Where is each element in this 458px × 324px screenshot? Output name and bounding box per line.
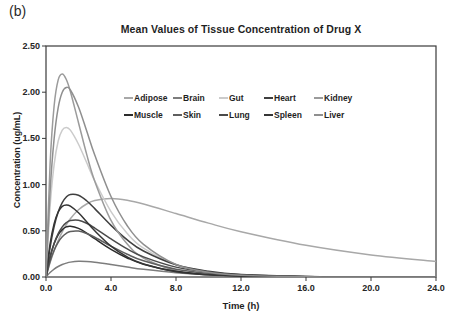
legend-dash-icon	[124, 114, 133, 116]
legend-dash-icon	[219, 114, 228, 116]
legend-dash-icon	[314, 114, 323, 116]
chart-legend: AdiposeBrainGutHeartKidneyMuscleSkinLung…	[124, 93, 358, 120]
legend-item-liver: Liver	[314, 110, 358, 120]
x-tick-label: 0.0	[40, 283, 53, 293]
x-tick-label: 8.0	[170, 283, 183, 293]
legend-label: Spleen	[274, 110, 302, 120]
y-tick-label: 1.50	[22, 133, 40, 143]
legend-label: Liver	[324, 110, 344, 120]
x-tick-label: 12.0	[232, 283, 250, 293]
legend-item-kidney: Kidney	[314, 93, 358, 103]
chart-plot-svg: 0.04.08.012.016.020.024.00.000.501.001.5…	[0, 0, 458, 324]
legend-item-brain: Brain	[173, 93, 219, 103]
figure-panel-b: (b) Mean Values of Tissue Concentration …	[0, 0, 458, 324]
y-tick-label: 0.00	[22, 272, 40, 282]
x-tick-label: 20.0	[362, 283, 380, 293]
legend-dash-icon	[173, 97, 182, 99]
series-line-skin	[46, 231, 436, 277]
legend-dash-icon	[124, 97, 133, 99]
y-tick-label: 0.50	[22, 226, 40, 236]
legend-label: Lung	[229, 110, 250, 120]
legend-item-adipose: Adipose	[124, 93, 173, 103]
x-tick-label: 24.0	[427, 283, 445, 293]
y-tick-label: 2.00	[22, 87, 40, 97]
legend-label: Heart	[274, 93, 296, 103]
legend-dash-icon	[314, 97, 323, 99]
legend-label: Gut	[229, 93, 244, 103]
y-tick-label: 2.50	[22, 41, 40, 51]
legend-item-muscle: Muscle	[124, 110, 173, 120]
series-line-gut	[46, 127, 436, 277]
legend-label: Muscle	[134, 110, 163, 120]
legend-item-lung: Lung	[219, 110, 264, 120]
series-line-adipose	[46, 198, 436, 277]
legend-dash-icon	[173, 114, 182, 116]
legend-dash-icon	[219, 97, 228, 99]
x-axis-title: Time (h)	[46, 300, 436, 311]
legend-label: Adipose	[134, 93, 168, 103]
legend-item-heart: Heart	[264, 93, 314, 103]
x-tick-label: 16.0	[297, 283, 315, 293]
legend-dash-icon	[264, 114, 273, 116]
x-tick-label: 4.0	[105, 283, 118, 293]
legend-label: Brain	[183, 93, 205, 103]
legend-label: Kidney	[324, 93, 352, 103]
legend-label: Skin	[183, 110, 201, 120]
legend-item-skin: Skin	[173, 110, 219, 120]
legend-item-gut: Gut	[219, 93, 264, 103]
series-line-spleen	[46, 205, 436, 277]
series-line-lung	[46, 220, 436, 277]
y-tick-label: 1.00	[22, 180, 40, 190]
legend-item-spleen: Spleen	[264, 110, 314, 120]
legend-dash-icon	[264, 97, 273, 99]
